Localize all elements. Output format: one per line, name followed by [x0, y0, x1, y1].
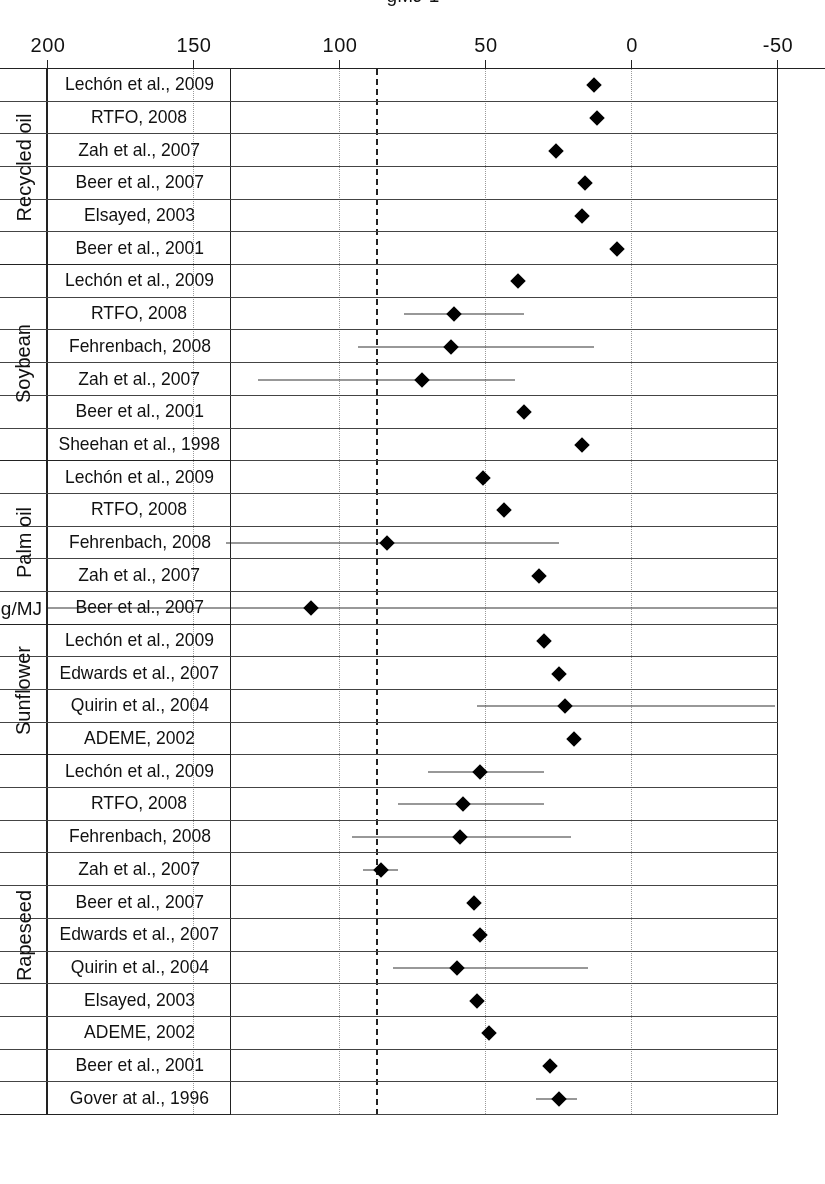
study-label-text: RTFO, 2008	[92, 793, 188, 814]
study-label-text: Beer et al., 2001	[75, 1055, 203, 1076]
group-label-cell: Recycled oil	[0, 69, 48, 265]
study-label-text: Lechón et al., 2009	[65, 467, 214, 488]
study-label-cell: Zah et al., 2007	[48, 854, 231, 887]
study-label-cell: Fehrenbach, 2008	[48, 821, 231, 854]
gridline	[631, 69, 632, 1115]
x-tick-label: 50	[474, 34, 497, 57]
row-separator	[0, 820, 778, 821]
row-separator	[0, 526, 778, 527]
study-label-cell: Sheehan et al., 1998	[48, 429, 231, 462]
error-bar	[258, 379, 515, 380]
gridline	[485, 69, 486, 1115]
row-separator	[0, 885, 778, 886]
study-label-cell: Quirin et al., 2004	[48, 690, 231, 723]
study-label-cell: Zah et al., 2007	[48, 559, 231, 592]
study-label-text: Zah et al., 2007	[79, 565, 201, 586]
study-label-cell: RTFO, 2008	[48, 788, 231, 821]
group-label-text: Rapeseed	[13, 890, 36, 981]
group-separator	[0, 624, 231, 625]
figure-root: 1811 g/MJ 200150100500-50 gMJ-1 Gover at…	[0, 0, 825, 1184]
study-label-cell: Edwards et al., 2007	[48, 657, 231, 690]
group-separator	[0, 460, 231, 461]
study-label-text: Lechón et al., 2009	[65, 630, 214, 651]
study-label-text: Lechón et al., 2009	[65, 74, 214, 95]
group-label-cell: Palm oil	[0, 461, 48, 624]
study-label-cell: ADEME, 2002	[48, 723, 231, 756]
error-bar	[404, 314, 524, 315]
study-label-cell: Beer et al., 2001	[48, 232, 231, 265]
row-separator	[0, 722, 778, 723]
error-bar	[398, 804, 544, 805]
study-label-cell: Lechón et al., 2009	[48, 461, 231, 494]
x-tick-label: 100	[323, 34, 358, 57]
row-separator	[0, 983, 778, 984]
study-label-cell: Zah et al., 2007	[48, 363, 231, 396]
group-label-cell: Sunflower	[0, 625, 48, 756]
study-label-cell: RTFO, 2008	[48, 298, 231, 331]
row-separator	[0, 297, 778, 298]
study-label-cell: Lechón et al., 2009	[48, 69, 231, 102]
study-label-cell: Beer et al., 2001	[48, 1050, 231, 1083]
group-label-cell: Rapeseed	[0, 755, 48, 1115]
row-separator	[0, 951, 778, 952]
axis-title: gMJ-1	[387, 0, 440, 7]
row-separator	[0, 101, 778, 102]
row-separator	[0, 330, 778, 331]
group-label-text: Palm oil	[12, 507, 35, 578]
row-separator	[0, 199, 778, 200]
study-label-text: Edwards et al., 2007	[60, 663, 220, 684]
study-label-text: Lechón et al., 2009	[65, 270, 214, 291]
study-label-cell: Lechón et al., 2009	[48, 265, 231, 298]
study-label-cell: Lechón et al., 2009	[48, 625, 231, 658]
study-label-text: Sheehan et al., 1998	[59, 434, 221, 455]
group-label-text: Sunflower	[13, 646, 36, 735]
row-separator	[0, 656, 778, 657]
study-label-cell: Gover at al., 1996	[48, 1082, 231, 1115]
study-label-text: Elsayed, 2003	[84, 205, 195, 226]
row-separator	[0, 395, 778, 396]
study-label-text: Quirin et al., 2004	[70, 695, 208, 716]
row-separator	[0, 231, 778, 232]
x-tick-label: -50	[763, 34, 793, 57]
study-label-text: Beer et al., 2007	[75, 172, 203, 193]
group-separator	[0, 1114, 231, 1115]
study-label-cell: Beer et al., 2001	[48, 396, 231, 429]
study-label-text: Gover at al., 1996	[70, 1088, 209, 1109]
study-label-text: Beer et al., 2007	[75, 597, 203, 618]
study-label-text: Fehrenbach, 2008	[68, 826, 210, 847]
study-label-text: ADEME, 2002	[84, 728, 195, 749]
group-separator	[0, 754, 231, 755]
x-tick-label: 150	[177, 34, 212, 57]
study-label-cell: Quirin et al., 2004	[48, 952, 231, 985]
row-separator	[0, 1049, 778, 1050]
study-label-cell: Edwards et al., 2007	[48, 919, 231, 952]
error-bar	[393, 967, 589, 968]
study-label-text: Zah et al., 2007	[79, 859, 201, 880]
study-label-cell: Fehrenbach, 2008	[48, 527, 231, 560]
study-label-cell: Zah et al., 2007	[48, 134, 231, 167]
study-label-cell: Beer et al., 2007	[48, 167, 231, 200]
study-label-text: RTFO, 2008	[92, 303, 188, 324]
group-label-cell: Soybean	[0, 265, 48, 461]
row-separator	[0, 591, 778, 592]
row-separator	[0, 362, 778, 363]
study-label-cell: RTFO, 2008	[48, 494, 231, 527]
row-separator	[0, 853, 778, 854]
study-label-text: Quirin et al., 2004	[70, 957, 208, 978]
study-label-cell: Fehrenbach, 2008	[48, 331, 231, 364]
study-label-text: Zah et al., 2007	[79, 140, 201, 161]
row-separator	[0, 689, 778, 690]
study-label-cell: Elsayed, 2003	[48, 984, 231, 1017]
row-separator	[0, 918, 778, 919]
study-label-cell: Beer et al., 2007	[48, 592, 231, 625]
row-separator	[0, 1081, 778, 1082]
study-label-text: Lechón et al., 2009	[65, 761, 214, 782]
reference-line	[376, 69, 378, 1115]
gridline	[339, 69, 340, 1115]
group-label-text: Soybean	[13, 324, 36, 403]
row-separator	[0, 428, 778, 429]
group-separator	[0, 264, 231, 265]
study-label-strip: Gover at al., 1996Beer et al., 2001ADEME…	[0, 69, 48, 1115]
study-label-cell: Lechón et al., 2009	[48, 755, 231, 788]
study-label-text: Beer et al., 2001	[75, 401, 203, 422]
